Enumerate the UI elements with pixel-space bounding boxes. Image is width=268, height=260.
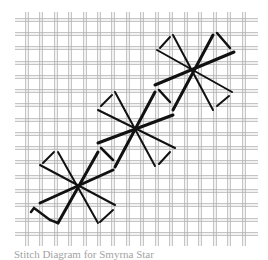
diagram-caption: Stitch Diagram for Smyrna Star [14, 248, 154, 260]
star-1 [31, 148, 115, 223]
